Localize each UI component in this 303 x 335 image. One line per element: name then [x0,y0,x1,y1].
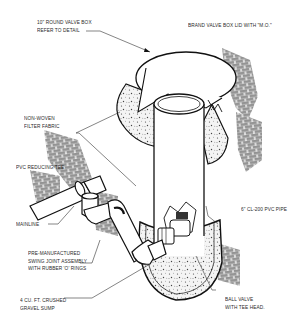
valve-box-diagram: 10" ROUND VALVE BOX REFER TO DETAIL BRAN… [0,0,303,335]
label-valve-box: 10" ROUND VALVE BOX REFER TO DETAIL [37,19,92,34]
label-ball-valve: BALL VALVE WITH TEE HEAD. [225,296,265,311]
label-mainline: MAINLINE [16,221,39,229]
label-lid: BRAND VALVE BOX LID WITH "M.O." [188,22,272,30]
label-swing-joint: PRE-MANUFACTURED SWING JOINT ASSEMBLY WI… [28,250,87,273]
label-filter-fabric: NON-WOVEN FILTER FABRIC [24,115,60,130]
label-pvc-pipe: 6" CL-200 PVC PIPE [241,206,287,214]
label-reducing-tee: PVC REDUCING TEE [16,164,64,172]
label-gravel-sump: 4 CU. FT. CRUSHED GRAVEL SUMP [20,297,66,312]
